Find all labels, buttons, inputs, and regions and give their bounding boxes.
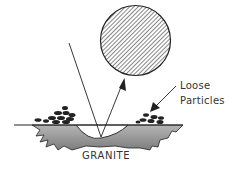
label-loose: Loose: [180, 80, 211, 92]
loose-particles-pointer: [154, 86, 176, 108]
loose-particles-left: [35, 106, 76, 124]
label-granite: GRANITE: [82, 150, 130, 162]
label-particles: Particles: [180, 95, 225, 107]
loose-particles-right: [136, 113, 165, 124]
projectile-circle: [101, 6, 171, 76]
incident-line: [69, 43, 101, 137]
